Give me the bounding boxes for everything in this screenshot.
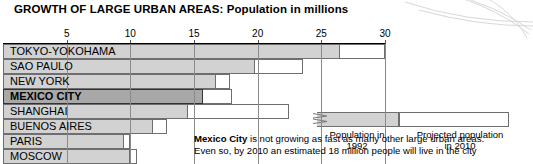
bar-segment-future (153, 119, 167, 134)
bar-row-label: SAO PAULO (10, 59, 73, 74)
legend-bar (317, 112, 509, 127)
bar-segment-future (216, 74, 230, 89)
bar-segment-future (188, 104, 290, 119)
bar-segment-future (255, 59, 303, 74)
x-tick-label: 5 (64, 28, 70, 39)
x-tick-label: 20 (252, 28, 263, 39)
gridline (130, 44, 131, 164)
x-axis: 51015202530 (0, 28, 533, 44)
bar-row-label: SHANGHAI (10, 104, 67, 119)
x-tick-label: 30 (379, 28, 390, 39)
bar-row-label: TOKYO-YOKOHAMA (10, 44, 116, 59)
bar-row[interactable]: SAO PAULO (0, 59, 533, 74)
x-tick-label: 15 (188, 28, 199, 39)
bar-row-label: BUENOS AIRES (10, 119, 92, 134)
bar-row-label: PARIS (10, 134, 42, 149)
bar-segment-future (203, 89, 232, 104)
bar-row[interactable]: NEW YORK (0, 74, 533, 89)
note-line2: Even so, by 2010 an estimated 18 million… (194, 145, 477, 156)
note-line1-rest: is not growing as fast as many other lar… (247, 133, 484, 144)
bar-row-label: NEW YORK (10, 74, 70, 89)
x-tick-label: 10 (125, 28, 136, 39)
bar-row[interactable]: TOKYO-YOKOHAMA (0, 44, 533, 59)
bar-segment-future (340, 44, 385, 59)
page-title: GROWTH OF LARGE URBAN AREAS: Population … (14, 3, 348, 15)
chart-note: Mexico City is not growing as fast as ma… (194, 133, 530, 157)
legend-swatch-future (399, 112, 509, 127)
x-tick-label: 25 (316, 28, 327, 39)
bar-row-label: MEXICO CITY (10, 89, 82, 104)
bar-row[interactable]: MEXICO CITY (0, 89, 533, 104)
note-bold-lead: Mexico City (194, 133, 247, 144)
bar-row-label: MOSCOW (10, 149, 62, 164)
